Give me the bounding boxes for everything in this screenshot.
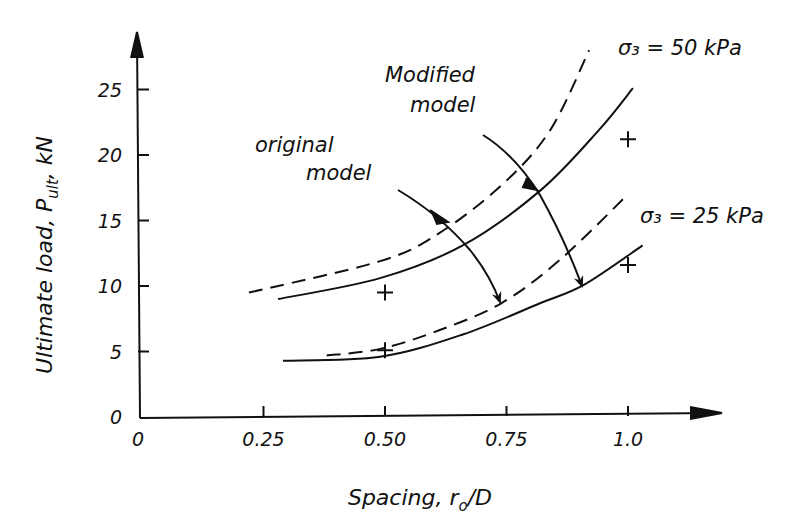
measured-point-plus-icon — [620, 131, 636, 147]
y-axis-arrow-icon — [131, 32, 143, 58]
data-markers — [377, 131, 636, 358]
y-axis — [137, 36, 140, 418]
x-tick-label: 0.50 — [364, 428, 406, 450]
modified-model-label-line1: Modified — [385, 63, 476, 87]
x-tick-label: 0.25 — [242, 428, 284, 450]
x-axis — [140, 413, 718, 418]
axis-tick-labels: 00.250.500.751.00510152025 — [98, 79, 643, 451]
x-axis-title: Spacing, ro/D — [348, 485, 492, 515]
axis-ticks — [138, 90, 628, 417]
y-axis-title: Ultimate load, Pult, kN — [32, 136, 62, 374]
y-tick-label: 20 — [98, 144, 122, 166]
y-tick-label: 0 — [110, 406, 122, 428]
series-line-3 — [283, 245, 643, 360]
original-model-arrow — [398, 190, 500, 302]
ultimate-load-chart: 00.250.500.751.00510152025 Ultimate load… — [0, 0, 788, 531]
x-tick-label: 0 — [132, 428, 144, 450]
annotation-arrows — [398, 135, 582, 302]
modified-model-label-line2: model — [410, 93, 476, 117]
y-tick-label: 10 — [98, 275, 122, 297]
y-tick-label: 15 — [98, 210, 122, 232]
series-line-2 — [327, 194, 628, 355]
y-tick-label: 5 — [110, 341, 122, 363]
sigma-50-label: σ₃ = 50 kPa — [618, 36, 742, 60]
original-model-label-line2: model — [306, 161, 372, 185]
x-tick-label: 0.75 — [485, 428, 527, 450]
x-axis-arrow-icon — [690, 407, 722, 419]
y-tick-label: 25 — [98, 79, 122, 101]
sigma-25-label: σ₃ = 25 kPa — [640, 204, 764, 228]
modified-model-arrow — [483, 135, 582, 286]
measured-point-plus-icon — [377, 285, 393, 301]
series-line-1 — [278, 88, 633, 299]
original-model-arrowhead-icon — [430, 210, 448, 224]
x-tick-label: 1.0 — [613, 428, 643, 450]
original-model-label-line1: original — [255, 133, 334, 157]
axes — [131, 32, 722, 419]
